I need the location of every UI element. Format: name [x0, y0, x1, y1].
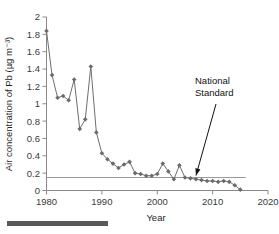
x-tick-label: 1980: [36, 196, 57, 207]
y-tick-label: 0.8: [27, 116, 40, 127]
x-tick-label: 2010: [202, 196, 223, 207]
y-tick-label: 1.4: [27, 63, 40, 74]
y-tick-label: 0: [35, 185, 40, 196]
annotation-line-2: Standard: [195, 87, 234, 98]
y-tick-label: 0.4: [27, 150, 40, 161]
x-axis-title: Year: [146, 212, 165, 223]
figure-container: 00.20.40.60.811.21.41.61.82 198019902000…: [0, 0, 279, 234]
y-axis-title: Air concentration of Pb (µg m⁻³): [3, 37, 14, 172]
y-tick-label: 1.2: [27, 81, 40, 92]
y-tick-label: 0.6: [27, 133, 40, 144]
y-tick-label: 1: [35, 98, 40, 109]
y-tick-label: 2: [35, 11, 40, 22]
x-tick-label: 1990: [91, 196, 112, 207]
x-tick-label: 2000: [147, 196, 168, 207]
y-tick-label: 1.8: [27, 29, 40, 40]
y-tick-label: 1.6: [27, 46, 40, 57]
x-tick-label: 2020: [257, 196, 278, 207]
caption-rule: [7, 221, 108, 226]
y-tick-label: 0.2: [27, 168, 40, 179]
annotation-line-1: National: [195, 75, 230, 86]
lead-concentration-line-chart: 00.20.40.60.811.21.41.61.82 198019902000…: [0, 0, 279, 234]
